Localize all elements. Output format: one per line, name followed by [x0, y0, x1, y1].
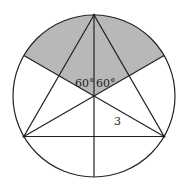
vertex-left — [23, 135, 26, 138]
vertex-top — [93, 14, 96, 17]
angle-label-left: 60° — [75, 77, 95, 90]
vertex-right — [163, 135, 166, 138]
geometry-diagram: 60° 60° 3 — [0, 0, 183, 188]
segment-length-label: 3 — [114, 115, 121, 128]
angle-label-right: 60° — [96, 77, 116, 90]
